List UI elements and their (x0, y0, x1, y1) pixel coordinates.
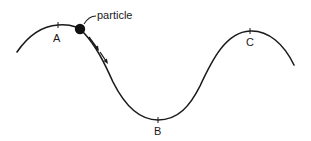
motion-arrows (89, 37, 108, 64)
label-c: C (246, 36, 254, 48)
arrow-shaft-1 (89, 37, 97, 48)
particle-leader-line (84, 16, 96, 24)
particle-label: particle (97, 9, 132, 21)
particle-icon (75, 24, 85, 34)
diagram-canvas: A B C particle (0, 0, 311, 141)
label-a: A (53, 32, 61, 44)
label-b: B (154, 125, 161, 137)
